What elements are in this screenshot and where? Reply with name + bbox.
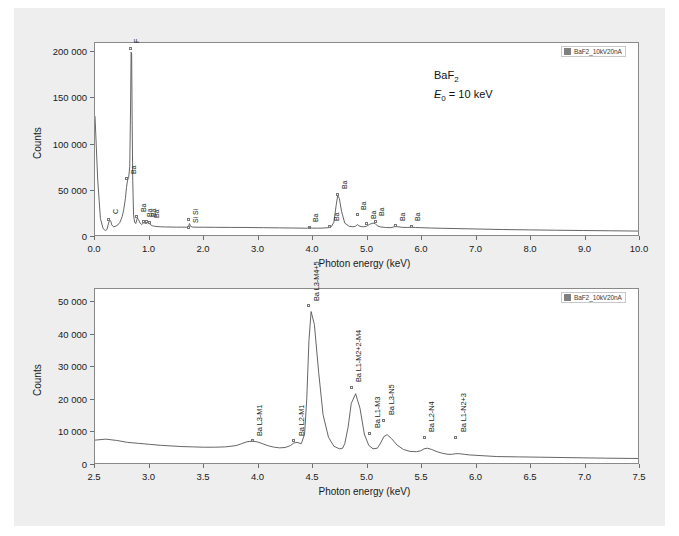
y-tick-label: 100 000 (14, 138, 87, 149)
peak-marker (125, 177, 128, 180)
y-tick-label: 0 (14, 459, 87, 470)
y-tick-label: 40 000 (14, 328, 87, 339)
peak-marker (454, 436, 457, 439)
peak-label: Ba (312, 214, 319, 222)
x-tick-label: 8.0 (523, 243, 536, 254)
peak-marker (251, 439, 254, 442)
peak-marker (394, 224, 397, 227)
peak-label: Ba (370, 211, 377, 219)
x-tick-label: 5.5 (414, 471, 427, 482)
x-tick-label: 1.0 (142, 243, 155, 254)
peak-marker (356, 213, 359, 216)
x-tick-label: 7.5 (632, 471, 645, 482)
x-tick-mark (367, 236, 368, 240)
x-tick-label: 3.5 (196, 471, 209, 482)
x-tick-label: 5.0 (360, 471, 373, 482)
x-tick-label: 7.0 (578, 471, 591, 482)
y-tick-label: 50 000 (14, 184, 87, 195)
x-tick-mark (421, 464, 422, 468)
y-tick-mark (90, 301, 94, 302)
y-tick-mark (90, 431, 94, 432)
peak-label: Ba (360, 201, 367, 209)
sample-annotation: BaF2 E0 = 10 keV (434, 68, 493, 106)
peak-marker (107, 218, 110, 221)
peak-label: Si (192, 209, 199, 215)
x-tick-mark (258, 236, 259, 240)
x-tick-label: 4.0 (305, 243, 318, 254)
x-tick-label: 4.0 (251, 471, 264, 482)
sample-formula: BaF2 (434, 68, 493, 87)
x-tick-mark (367, 464, 368, 468)
x-tick-label: 5.0 (360, 243, 373, 254)
x-tick-label: 0.0 (87, 243, 100, 254)
y-tick-label: 150 000 (14, 92, 87, 103)
peak-label: Ba L2-N4 (427, 402, 436, 433)
x-tick-label: 2.0 (196, 243, 209, 254)
peak-label: Ba (378, 208, 385, 216)
legend-top: BaF2_10kV20nA (561, 46, 626, 57)
y-tick-label: 200 000 (14, 46, 87, 57)
peak-label: Ba L3-N5 (387, 385, 396, 416)
legend-label: BaF2_10kV20nA (574, 294, 622, 301)
legend-swatch-icon (564, 294, 571, 301)
x-tick-mark (258, 464, 259, 468)
y-tick-mark (90, 144, 94, 145)
peak-label: Ba (333, 213, 340, 221)
x-tick-mark (203, 236, 204, 240)
beam-energy: E0 = 10 keV (434, 87, 493, 106)
peak-marker (328, 225, 331, 228)
x-tick-mark (585, 464, 586, 468)
peak-marker (410, 225, 413, 228)
peak-label: Ba L3-M4+5 (312, 261, 321, 301)
peak-marker (368, 432, 371, 435)
peak-label: Ba L2-M1 (297, 404, 306, 435)
peak-marker (308, 226, 311, 229)
spectrum-trace-bottom (95, 289, 638, 463)
peak-marker (292, 439, 295, 442)
peak-label: Ba (153, 209, 160, 217)
peak-marker (365, 222, 368, 225)
x-tick-mark (476, 236, 477, 240)
y-tick-mark (90, 366, 94, 367)
peak-marker (350, 386, 353, 389)
x-tick-mark (476, 464, 477, 468)
x-tick-mark (149, 236, 150, 240)
peak-marker (129, 47, 132, 50)
y-tick-label: 30 000 (14, 361, 87, 372)
figure-container: Counts 050 000100 000150 000200 000 0.01… (14, 8, 665, 526)
x-tick-label: 4.5 (305, 471, 318, 482)
y-tick-mark (90, 97, 94, 98)
peak-label: Si (192, 217, 199, 223)
y-tick-mark (90, 190, 94, 191)
peak-label: Ba (399, 213, 406, 221)
peak-label: Ba L1-M2+2-M4 (354, 330, 363, 382)
peak-label: Ba (341, 181, 348, 189)
peak-label: F (133, 39, 140, 43)
peak-label: Ba L3-M1 (255, 404, 264, 435)
x-tick-mark (530, 236, 531, 240)
peak-marker (135, 215, 138, 218)
x-tick-label: 2.5 (87, 471, 100, 482)
x-tick-mark (312, 464, 313, 468)
x-tick-label: 10.0 (630, 243, 649, 254)
peak-marker (187, 218, 190, 221)
x-axis-title-bottom: Photon energy (keV) (319, 486, 411, 497)
peak-marker (307, 304, 310, 307)
x-tick-mark (203, 464, 204, 468)
x-tick-mark (585, 236, 586, 240)
x-tick-label: 6.0 (469, 471, 482, 482)
x-tick-label: 6.5 (523, 471, 536, 482)
x-tick-label: 6.0 (414, 243, 427, 254)
peak-label: Ba L1-N2+3 (459, 394, 468, 433)
peak-marker (148, 221, 151, 224)
y-tick-label: 0 (14, 231, 87, 242)
x-tick-label: 7.0 (469, 243, 482, 254)
peak-marker (336, 193, 339, 196)
y-tick-label: 10 000 (14, 426, 87, 437)
x-tick-mark (312, 236, 313, 240)
legend-bottom: BaF2_10kV20nA (561, 292, 626, 303)
peak-label: Ba L1-M3 (373, 397, 382, 428)
x-tick-mark (421, 236, 422, 240)
x-tick-mark (639, 236, 640, 240)
y-tick-mark (90, 51, 94, 52)
